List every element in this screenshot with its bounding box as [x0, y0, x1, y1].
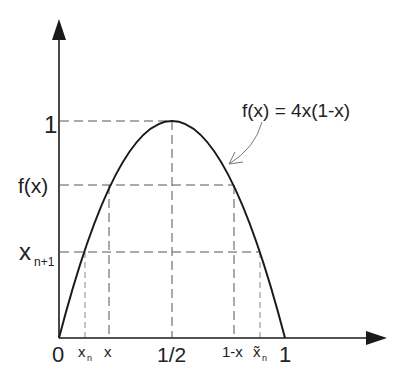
diagram-canvas: f(x) = 4x(1-x) 1 f(x) x n+1 0 x n x 1/2 … — [0, 0, 408, 383]
x-label-zero: 0 — [52, 342, 64, 367]
y-label-fx: f(x) — [18, 174, 48, 197]
y-axis-arrowhead-icon — [52, 19, 66, 40]
x-label-one-minus-x: 1-x — [222, 343, 243, 360]
x-label-xtilde: x̃ — [253, 343, 261, 360]
y-label-xn1-subscript: n+1 — [34, 255, 55, 269]
x-label-xn-subscript: n — [87, 353, 92, 363]
guide-lines — [60, 121, 260, 338]
x-label-xn: x — [78, 343, 86, 360]
x-label-half: 1/2 — [157, 343, 186, 366]
x-axis-arrowhead-icon — [366, 331, 387, 345]
y-label-xn1: x — [19, 238, 31, 265]
x-label-xtilde-subscript: n — [262, 353, 267, 363]
y-label-one: 1 — [44, 111, 57, 138]
axes — [59, 36, 368, 338]
logistic-map-diagram: f(x) = 4x(1-x) 1 f(x) x n+1 0 x n x 1/2 … — [0, 0, 408, 383]
x-label-one: 1 — [279, 342, 291, 367]
x-label-x: x — [104, 343, 112, 360]
function-label: f(x) = 4x(1-x) — [242, 100, 350, 121]
annotation-arrow-line — [229, 122, 262, 164]
